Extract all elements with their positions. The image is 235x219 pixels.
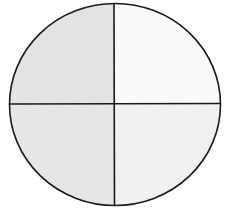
quadrant-top-left bbox=[0, 0, 114, 104]
quadrant-bottom-right bbox=[114, 104, 235, 219]
horizontal-divider bbox=[10, 104, 221, 105]
quadrant-top-right bbox=[114, 0, 235, 104]
quartered-circle-diagram bbox=[0, 0, 235, 219]
quadrant-bottom-left bbox=[0, 104, 114, 219]
